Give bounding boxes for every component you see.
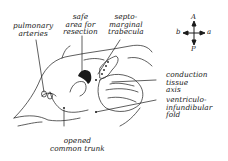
label-conduction-tissue-axis: conduction tissue axis [166,71,208,94]
label-pulmonary-arteries: pulmonary arteries [13,22,53,37]
leader-pulmonary-arteries [36,40,44,92]
axis-label-anterior: A [191,13,196,21]
label-ventriculo-infundibular-fold: ventriculo- infundibular fold [166,96,212,119]
axis-label-posterior: P [191,45,196,53]
orientation-compass [183,21,205,45]
label-safe-area: safe area for resection [63,13,98,36]
label-septomarginal-trabecula: septo- marginal trabecula [108,13,144,36]
anatomical-diagram: pulmonary arteries safe area for resecti… [0,0,228,161]
axis-label-a: a [207,28,211,36]
axis-label-b: b [176,28,180,36]
label-opened-common-trunk: opened common trunk [50,137,105,152]
safe-area-marker [78,70,91,84]
